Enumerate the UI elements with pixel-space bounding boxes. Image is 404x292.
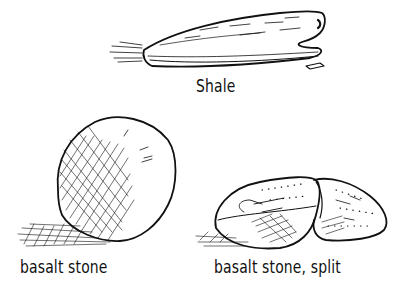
shale-drawing (110, 11, 325, 69)
label-shale: Shale (196, 76, 236, 96)
basalt-stone-drawing (18, 117, 176, 246)
label-basalt-stone-split: basalt stone, split (214, 257, 341, 277)
illustration-canvas: Shale basalt stone basalt stone, split (0, 0, 404, 292)
stones-drawing (0, 0, 404, 292)
label-basalt-stone: basalt stone (20, 257, 108, 277)
basalt-split-drawing (196, 177, 386, 248)
